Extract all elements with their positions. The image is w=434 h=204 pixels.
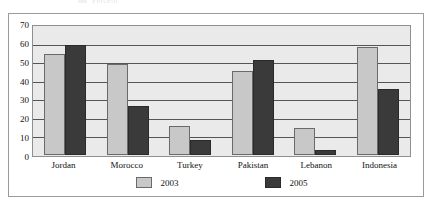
category-label-morocco: Morocco	[95, 160, 158, 170]
y-axis-tick-labels: 70 60 50 40 30 20 10 0	[11, 25, 29, 157]
bar-group-turkey	[159, 27, 222, 155]
y-tick-70: 70	[20, 21, 29, 30]
bar-morocco-2003[interactable]	[107, 64, 128, 155]
bar-turkey-2005[interactable]	[190, 140, 211, 155]
category-label-lebanon: Lebanon	[285, 160, 348, 170]
plot-region: 70 60 50 40 30 20 10 0	[32, 25, 411, 157]
x-axis-category-labels: JordanMoroccoTurkeyPakistanLebanonIndone…	[32, 160, 411, 170]
bar-group-jordan	[34, 27, 97, 155]
ghost-swatch-icon	[78, 0, 87, 3]
bar-group-pakistan	[222, 27, 285, 155]
bar-lebanon-2005[interactable]	[315, 150, 336, 155]
y-tick-20: 20	[20, 115, 29, 124]
bar-turkey-2003[interactable]	[169, 126, 190, 155]
category-label-pakistan: Pakistan	[222, 160, 285, 170]
legend-swatch-2005-icon	[265, 177, 281, 188]
bar-group-lebanon	[284, 27, 347, 155]
bar-jordan-2003[interactable]	[44, 54, 65, 155]
bar-group-morocco	[97, 27, 160, 155]
bar-group-indonesia	[347, 27, 410, 155]
category-label-turkey: Turkey	[158, 160, 221, 170]
bar-lebanon-2003[interactable]	[294, 128, 315, 155]
top-clipped-strip: Percent	[0, 0, 434, 9]
y-tick-0: 0	[25, 153, 30, 162]
legend-swatch-2003-icon	[136, 177, 152, 188]
legend-entry-2003[interactable]: 2003	[136, 177, 179, 188]
chart-legend: 2003 2005	[32, 177, 411, 188]
legend-label-2003: 2003	[161, 178, 179, 188]
y-tick-30: 30	[20, 96, 29, 105]
category-label-jordan: Jordan	[32, 160, 95, 170]
y-tick-40: 40	[20, 77, 29, 86]
top-clipped-legend-ghost: Percent	[78, 0, 118, 5]
y-tick-10: 10	[20, 134, 29, 143]
legend-entry-2005[interactable]: 2005	[265, 177, 308, 188]
legend-label-2005: 2005	[290, 178, 308, 188]
category-label-indonesia: Indonesia	[348, 160, 411, 170]
y-tick-60: 60	[20, 39, 29, 48]
plot-area	[32, 25, 411, 157]
bar-pakistan-2005[interactable]	[253, 60, 274, 155]
bar-pakistan-2003[interactable]	[232, 71, 253, 155]
y-tick-50: 50	[20, 58, 29, 67]
bar-morocco-2005[interactable]	[128, 106, 149, 155]
bar-jordan-2005[interactable]	[65, 45, 86, 155]
chart-figure-frame: 70 60 50 40 30 20 10 0 JordanMoroccoTurk…	[8, 13, 424, 197]
top-clipped-text: Percent	[92, 0, 118, 5]
bar-indonesia-2003[interactable]	[357, 47, 378, 155]
bars-layer	[34, 27, 409, 155]
bar-indonesia-2005[interactable]	[378, 89, 399, 155]
